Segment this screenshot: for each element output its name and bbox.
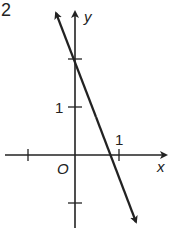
origin-label: O [57, 160, 69, 177]
x-axis-label: x [156, 158, 165, 175]
y-axis-label: y [83, 8, 93, 25]
coordinate-graph: y x O 1 1 [0, 0, 170, 228]
y-tick-label-1: 1 [55, 99, 63, 116]
x-tick-label-1: 1 [115, 131, 123, 148]
